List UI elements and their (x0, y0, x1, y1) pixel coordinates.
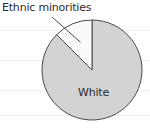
pie-chart-figure: Ethnic minorities White (0, 0, 150, 129)
pie-slices (42, 20, 142, 120)
pie-label-white: White (78, 86, 109, 99)
pie-label-ethnic-minorities: Ethnic minorities (2, 1, 91, 14)
pie-svg (0, 0, 150, 129)
